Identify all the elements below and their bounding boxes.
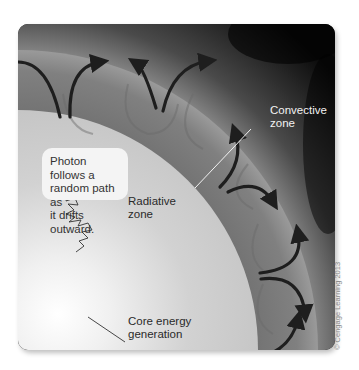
core-label: Core energy generation [128,315,191,341]
callout-line: random path as [50,182,122,209]
callout-line: Photon follows a [50,155,122,182]
convective-zone-label: Convective zone [270,104,327,130]
radiative-zone-label: Radiative zone [128,195,176,221]
copyright-notice: © Cengage Learning 2013 [333,250,342,350]
sun-diagram-frame: Photon follows a random path as it drift… [18,24,335,350]
photon-callout: Photon follows a random path as it drift… [42,148,128,200]
callout-line: it drifts outward. [50,209,122,236]
